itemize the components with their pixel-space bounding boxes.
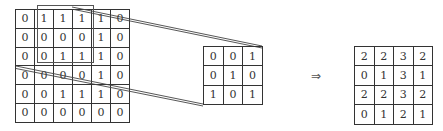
input-cell: 1 [92,66,111,85]
output-cell: 2 [355,85,375,104]
input-row: 011110 [16,10,130,29]
kernel-row: 001 [204,47,263,66]
input-matrix: 011110000010001110000010001110000000 [15,9,130,123]
input-cell: 0 [111,103,130,122]
output-cell: 2 [413,85,433,104]
kernel-cell: 1 [243,47,263,66]
output-cell: 0 [355,66,375,85]
input-cell: 0 [111,47,130,66]
input-cell: 0 [16,47,35,66]
output-row: 2232 [355,85,433,104]
input-cell: 1 [73,47,92,66]
output-row: 0121 [355,105,433,124]
kernel-cell: 1 [204,85,224,104]
input-cell: 0 [73,103,92,122]
input-cell: 0 [16,28,35,47]
input-cell: 0 [35,66,54,85]
input-cell: 0 [73,28,92,47]
input-row: 000010 [16,66,130,85]
input-cell: 0 [92,103,111,122]
kernel-cell: 1 [243,85,263,104]
output-cell: 1 [413,105,433,124]
kernel-row: 101 [204,85,263,104]
input-cell: 0 [111,28,130,47]
input-cell: 0 [35,103,54,122]
input-cell: 0 [16,10,35,29]
input-cell: 1 [54,85,73,104]
output-cell: 1 [413,66,433,85]
input-cell: 1 [92,47,111,66]
input-cell: 0 [54,66,73,85]
kernel-cell: 0 [243,66,263,85]
output-cell: 3 [394,47,414,66]
output-cell: 1 [374,105,394,124]
implies-arrow-icon: ⇒ [311,69,321,83]
input-cell: 0 [73,66,92,85]
output-cell: 2 [355,47,375,66]
input-cell: 1 [35,10,54,29]
output-cell: 2 [413,47,433,66]
output-cell: 2 [374,85,394,104]
kernel-cell: 0 [204,66,224,85]
input-cell: 1 [73,10,92,29]
output-cell: 3 [394,66,414,85]
input-cell: 0 [54,103,73,122]
input-cell: 0 [35,28,54,47]
input-row: 001110 [16,47,130,66]
input-cell: 1 [54,47,73,66]
input-cell: 0 [16,103,35,122]
input-cell: 1 [92,28,111,47]
input-cell: 0 [54,28,73,47]
input-cell: 1 [54,10,73,29]
input-cell: 0 [35,85,54,104]
output-cell: 0 [355,105,375,124]
input-row: 001110 [16,85,130,104]
input-cell: 0 [35,47,54,66]
output-row: 0131 [355,66,433,85]
input-cell: 0 [111,85,130,104]
input-cell: 0 [111,10,130,29]
input-cell: 0 [16,66,35,85]
input-cell: 1 [92,10,111,29]
kernel-cell: 0 [204,47,224,66]
output-cell: 2 [374,47,394,66]
kernel-matrix: 001010101 [203,46,263,105]
input-row: 000000 [16,103,130,122]
input-cell: 1 [92,85,111,104]
input-cell: 1 [73,85,92,104]
kernel-cell: 1 [223,66,243,85]
output-cell: 1 [374,66,394,85]
kernel-cell: 0 [223,47,243,66]
input-cell: 0 [16,85,35,104]
input-row: 000010 [16,28,130,47]
kernel-row: 010 [204,66,263,85]
kernel-cell: 0 [223,85,243,104]
output-cell: 2 [394,105,414,124]
output-matrix: 2232013122320121 [354,46,433,125]
input-cell: 0 [111,66,130,85]
output-cell: 3 [394,85,414,104]
output-row: 2232 [355,47,433,66]
